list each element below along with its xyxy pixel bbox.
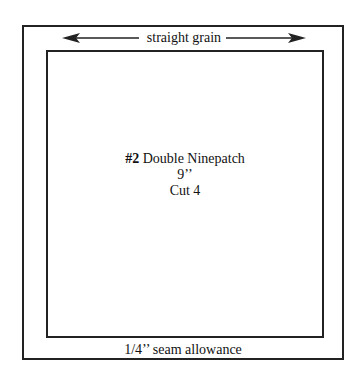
block-info: #2 Double Ninepatch 9’’ Cut 4 (46, 151, 324, 199)
cut-count: Cut 4 (46, 183, 324, 199)
block-name: Double Ninepatch (143, 151, 245, 166)
right-arrow-icon (226, 31, 306, 45)
block-number: #2 (125, 151, 139, 166)
grain-label: straight grain (139, 30, 229, 46)
seam-allowance-label: 1/4’’ seam allowance (22, 342, 344, 358)
block-size: 9’’ (46, 167, 324, 183)
block-title: #2 Double Ninepatch (46, 151, 324, 167)
grain-indicator: straight grain (62, 28, 306, 48)
